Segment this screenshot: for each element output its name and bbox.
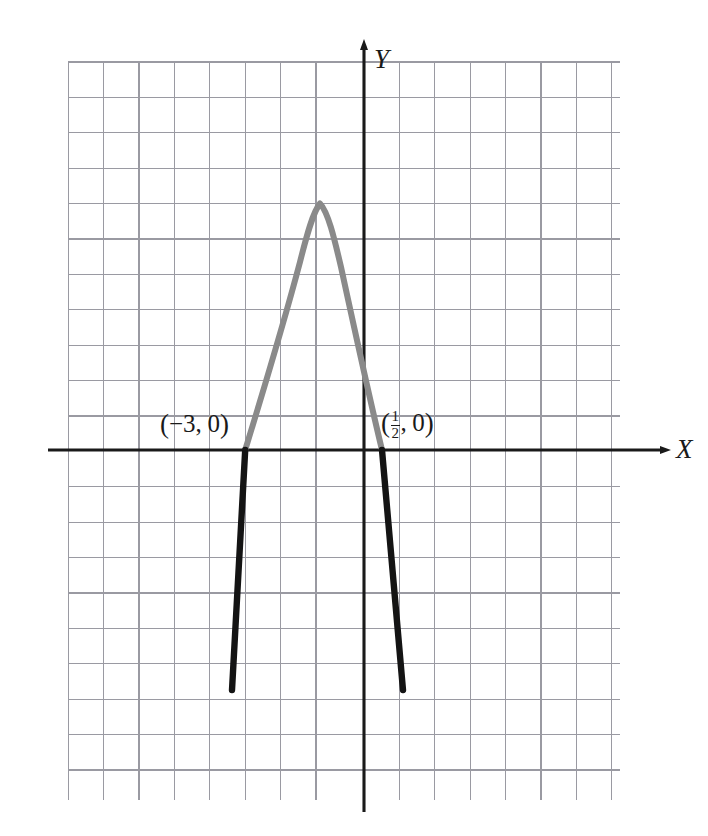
paren-close: ): [425, 408, 434, 438]
label-root-right: (12, 0): [381, 409, 434, 441]
root-left-y-value: 0: [207, 410, 220, 437]
parabola-curve: [232, 204, 403, 691]
graph-figure: Y X (−3, 0) (12, 0): [0, 0, 708, 836]
parabola-arc-above-axis: [245, 204, 382, 451]
parabola-branch-below-left: [232, 450, 245, 690]
comma: ,: [196, 410, 203, 437]
fraction-denominator: 2: [391, 425, 401, 442]
root-left-x-value: −3: [169, 410, 196, 437]
fraction-numerator: 1: [391, 409, 401, 425]
root-right-y-value: 0: [412, 409, 425, 436]
comma: ,: [401, 409, 408, 436]
paren-open: (: [381, 408, 390, 438]
axis-lines: [48, 48, 662, 812]
fraction-one-half: 12: [391, 409, 401, 441]
label-root-left: (−3, 0): [160, 411, 229, 438]
plot-canvas: [0, 0, 708, 836]
paren-open: (: [160, 409, 169, 439]
y-axis-label: Y: [374, 44, 389, 75]
paren-close: ): [220, 409, 229, 439]
grid-lines: [68, 62, 620, 800]
x-axis-label: X: [676, 434, 693, 465]
